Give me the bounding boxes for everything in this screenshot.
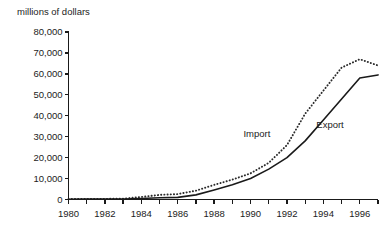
y-axis-tick-label: 50,000 (17, 90, 63, 100)
x-axis-tick-label: 1982 (88, 209, 122, 219)
x-axis-tick-label: 1992 (270, 209, 304, 219)
x-axis-tick-label: 1990 (234, 209, 268, 219)
chart-container: millions of dollars 80,00070,00060,00050… (0, 0, 388, 236)
y-axis-tick-label: 30,000 (17, 132, 63, 142)
x-axis-tick-label: 1986 (161, 209, 195, 219)
x-axis-tick-label: 1994 (306, 209, 340, 219)
x-axis-tick-label: 1984 (124, 209, 158, 219)
series-label-import: Import (243, 129, 270, 139)
series-line-export (69, 75, 379, 199)
chart-axes (65, 31, 379, 204)
y-axis-tick-label: 40,000 (17, 111, 63, 121)
y-axis-tick-label: 70,000 (17, 48, 63, 58)
y-axis-tick-label: 20,000 (17, 153, 63, 163)
y-axis-tick-label: 0 (17, 195, 63, 205)
y-axis-tick-label: 60,000 (17, 69, 63, 79)
x-axis-tick-label: 1988 (197, 209, 231, 219)
series-label-export: Export (316, 120, 343, 130)
y-axis-tick-label: 80,000 (17, 27, 63, 37)
x-axis-tick-label: 1980 (52, 209, 86, 219)
x-axis-tick-label: 1996 (343, 209, 377, 219)
y-axis-tick-label: 10,000 (17, 174, 63, 184)
